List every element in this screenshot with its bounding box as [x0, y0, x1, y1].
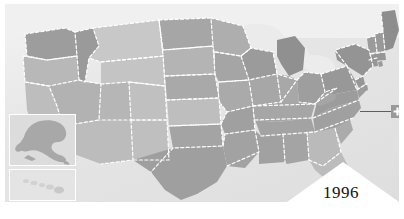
state-SD: [163, 46, 215, 76]
state-CO: [129, 82, 167, 120]
plus-icon: [393, 107, 399, 116]
callout-rhode-island[interactable]: [360, 104, 399, 120]
state-KS: [167, 98, 221, 126]
state-UT: [99, 82, 131, 120]
state-OK: [169, 124, 223, 148]
state-LA: [223, 130, 259, 168]
alaska-shape: [10, 115, 77, 167]
state-MI: [277, 36, 305, 76]
state-MN: [211, 18, 251, 56]
inset-box-alaska[interactable]: [9, 114, 76, 166]
map-frame: 1996: [5, 4, 399, 202]
state-ND: [159, 18, 213, 50]
callout-leader-line: [360, 111, 392, 112]
state-AL: [283, 132, 309, 164]
hawaii-shape: [10, 170, 77, 202]
year-banner: 1996: [287, 162, 399, 202]
year-label: 1996: [287, 184, 395, 201]
state-MT: [89, 20, 163, 62]
state-NE: [165, 74, 219, 100]
plus-marker-icon[interactable]: [391, 105, 399, 118]
state-RI: [378, 61, 383, 67]
inset-box-hawaii[interactable]: [9, 169, 76, 201]
map-screenshot: 1996: [0, 0, 404, 219]
